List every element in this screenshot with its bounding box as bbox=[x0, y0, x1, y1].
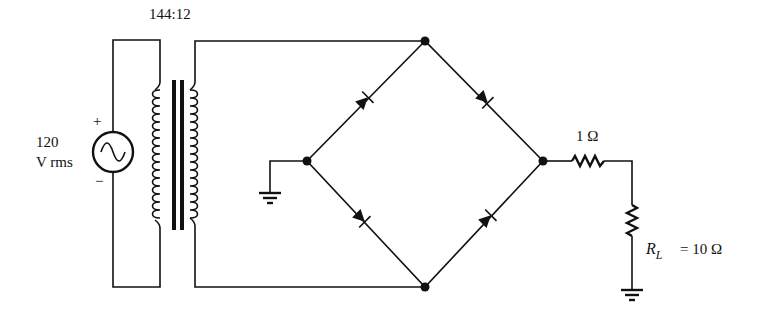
transformer-core-icon bbox=[172, 80, 184, 230]
bridge-rectifier-circuit: 144:12 + − 120 V rms bbox=[0, 0, 770, 322]
diode-icon bbox=[477, 210, 497, 230]
node-bottom bbox=[421, 283, 430, 292]
ground-icon bbox=[621, 290, 643, 300]
series-resistor-icon bbox=[543, 156, 632, 205]
series-resistor-label: 1 Ω bbox=[576, 128, 598, 144]
diode-icon bbox=[474, 89, 494, 109]
diode-bridge bbox=[303, 37, 548, 292]
source-minus-sign: − bbox=[95, 173, 103, 189]
load-resistor-value: = 10 Ω bbox=[680, 241, 722, 257]
primary-winding-icon bbox=[153, 90, 161, 218]
source-voltage-unit: V rms bbox=[36, 154, 73, 170]
load-resistor-icon bbox=[627, 205, 637, 290]
load-resistor-symbol: RL bbox=[645, 240, 663, 262]
node-top bbox=[421, 37, 430, 46]
transformer-ratio-label: 144:12 bbox=[149, 6, 191, 22]
ac-source-icon bbox=[93, 132, 133, 172]
diode-icon bbox=[354, 92, 374, 112]
source-plus-sign: + bbox=[93, 113, 101, 129]
ground-icon bbox=[259, 161, 307, 203]
secondary-winding-icon bbox=[190, 90, 198, 218]
source-voltage-value: 120 bbox=[36, 134, 59, 150]
